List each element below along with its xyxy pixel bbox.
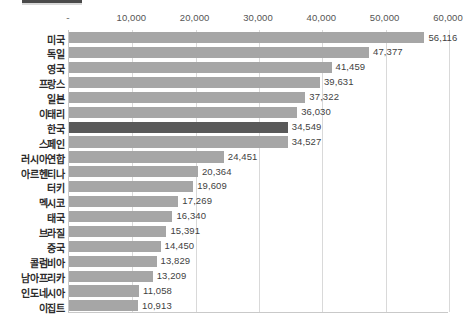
category-label: 일본 [1, 91, 65, 106]
x-tick-label: 10,000 [116, 12, 146, 23]
bar-value-label: 16,340 [176, 210, 206, 221]
bar-row: 15,391 [69, 224, 448, 239]
bar-row: 13,209 [69, 268, 448, 283]
bar [69, 300, 138, 311]
x-tick-label: 60,000 [433, 12, 463, 23]
bar [69, 62, 332, 73]
bar-row: 39,631 [69, 75, 448, 90]
bar-value-label: 11,058 [143, 285, 172, 296]
bar-row: 19,609 [69, 179, 448, 194]
bar-value-label: 41,459 [336, 61, 366, 72]
bar-value-label: 15,391 [170, 225, 200, 236]
category-label: 한국 [1, 121, 65, 136]
category-label: 미국 [1, 32, 65, 47]
bar [69, 47, 369, 58]
bar-row: 47,377 [69, 45, 448, 60]
bar-row: 37,322 [69, 90, 448, 105]
x-tick-label: 40,000 [306, 12, 336, 23]
bar [69, 77, 320, 88]
category-label: 중국 [1, 240, 65, 255]
bar [69, 241, 161, 252]
bar-value-label: 47,377 [373, 46, 403, 57]
bar-value-label: 34,527 [292, 136, 322, 147]
bar [69, 181, 193, 192]
category-label: 터키 [1, 180, 65, 195]
bar-value-label: 17,269 [182, 195, 212, 206]
bar [69, 196, 178, 207]
plot-area: 56,11647,37741,45939,63137,32236,03034,5… [68, 30, 448, 313]
bar-value-label: 13,829 [161, 255, 191, 266]
category-label: 프랑스 [1, 76, 65, 91]
bar-value-label: 20,364 [202, 166, 232, 177]
bar-row: 13,829 [69, 253, 448, 268]
bar [69, 107, 297, 118]
category-label: 멕시코 [1, 195, 65, 210]
bar [69, 256, 157, 267]
bar-value-label: 39,631 [324, 76, 354, 87]
bar-row: 36,030 [69, 104, 448, 119]
bar [69, 271, 153, 282]
bar-value-label: 19,609 [197, 180, 227, 191]
category-label: 남아프리카 [1, 270, 65, 285]
bar-row: 20,364 [69, 164, 448, 179]
category-label: 이태리 [1, 106, 65, 121]
x-tick-label: 30,000 [243, 12, 273, 23]
cropped-top-element-shadow [22, 3, 82, 5]
bar-row: 10,913 [69, 298, 448, 313]
bar [69, 166, 198, 177]
bar [69, 151, 224, 162]
bar-row: 16,340 [69, 209, 448, 224]
bar [69, 136, 288, 147]
bar-value-label: 36,030 [301, 106, 331, 117]
bar [69, 285, 139, 296]
bar-row: 41,459 [69, 60, 448, 75]
x-tick-label: 50,000 [370, 12, 400, 23]
bar-value-label: 56,116 [428, 32, 457, 43]
category-label: 콜럼비아 [1, 255, 65, 270]
bar-value-label: 34,549 [292, 121, 322, 132]
bar [69, 226, 166, 237]
bar-value-label: 13,209 [157, 270, 187, 281]
bar-row: 11,058 [69, 283, 448, 298]
x-axis-tick-labels: -10,00020,00030,00040,00050,00060,000 [0, 12, 455, 30]
y-axis-category-labels: 미국독일영국프랑스일본이태리한국스페인러시아연합아르헨티나터키멕시코태국브라질중… [0, 30, 65, 313]
bar-highlighted [69, 122, 288, 133]
bar [69, 92, 305, 103]
bar-row: 14,450 [69, 239, 448, 254]
category-label: 브라질 [1, 225, 65, 240]
category-label: 아르헨티나 [1, 166, 65, 181]
bar [69, 211, 172, 222]
category-label: 영국 [1, 61, 65, 76]
bar-row: 34,527 [69, 134, 448, 149]
bar-row: 24,451 [69, 149, 448, 164]
category-label: 스페인 [1, 136, 65, 151]
x-tick-label: 20,000 [180, 12, 210, 23]
bar [69, 32, 424, 43]
bar-value-label: 37,322 [309, 91, 339, 102]
bar-row: 34,549 [69, 119, 448, 134]
category-label: 독일 [1, 46, 65, 61]
bar-value-label: 10,913 [142, 300, 172, 311]
bar-value-label: 14,450 [165, 240, 195, 251]
category-label: 태국 [1, 210, 65, 225]
category-label: 인도네시아 [1, 285, 65, 300]
x-tick-label: - [66, 12, 69, 23]
category-label: 이집트 [1, 300, 65, 315]
bar-row: 56,116 [69, 30, 448, 45]
category-label: 러시아연합 [1, 151, 65, 166]
bar-row: 17,269 [69, 194, 448, 209]
gridline [449, 30, 450, 312]
bar-value-label: 24,451 [228, 151, 258, 162]
bar-rows: 56,11647,37741,45939,63137,32236,03034,5… [69, 30, 448, 312]
